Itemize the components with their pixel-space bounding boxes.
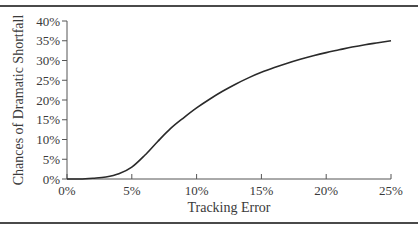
x-tick-label: 15% [249, 183, 273, 198]
y-tick-label: 5% [43, 152, 61, 167]
x-tick-label: 25% [379, 183, 403, 198]
x-tick-label: 20% [314, 183, 338, 198]
y-tick-label: 40% [36, 14, 60, 29]
y-tick-label: 25% [36, 73, 60, 88]
y-tick-label: 10% [36, 132, 60, 147]
x-axis-title: Tracking Error [187, 200, 270, 215]
y-axis-title: Chances of Dramatic Shortfall [11, 15, 26, 186]
y-tick-label: 15% [36, 112, 60, 127]
x-tick-label: 5% [123, 183, 141, 198]
y-tick-label: 30% [36, 53, 60, 68]
shortfall-curve [67, 41, 391, 179]
y-axis: 0%5%10%15%20%25%30%35%40% [36, 14, 67, 187]
x-tick-label: 10% [185, 183, 209, 198]
x-tick-label: 0% [58, 183, 76, 198]
y-tick-label: 35% [36, 33, 60, 48]
y-tick-label: 20% [36, 93, 60, 108]
x-axis: 0%5%10%15%20%25% [58, 174, 403, 198]
line-chart: 0%5%10%15%20%25%30%35%40% 0%5%10%15%20%2… [0, 0, 418, 228]
